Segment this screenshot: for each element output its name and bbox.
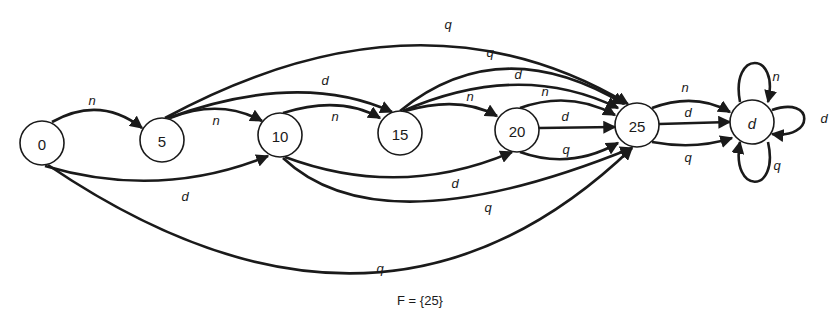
edge-label: d [561,109,569,124]
edge-label: q [486,45,494,60]
edge-label: q [562,142,570,157]
state-node-25: 25 [615,103,659,147]
edge-10-to-20-d [285,152,512,177]
edge-label: n [772,69,779,84]
edge-0-to-25-q [48,148,632,273]
edge-25-to-d-d [659,122,730,124]
edge-25-to-d-q [652,138,732,145]
state-node-10: 10 [258,113,302,157]
automaton-diagram: ndqndqndqndqndqndqndq 0510152025d F = {2… [0,0,840,325]
state-node-0: 0 [20,121,64,165]
edge-label: d [181,189,189,204]
state-label: d [748,115,757,132]
state-label: 15 [392,126,409,143]
edge-label: q [684,150,692,165]
edge-label: q [376,261,384,276]
state-label: 20 [509,123,526,140]
edge-label: n [88,93,95,108]
edge-0-to-5-n [52,110,142,128]
edge-d-to-d-q [739,142,770,182]
edge-label: n [331,109,338,124]
edge-label: d [321,73,329,88]
edge-label: q [444,17,452,32]
edge-label: d [451,176,459,191]
state-label: 0 [38,136,46,153]
edge-5-to-25-q [165,45,628,118]
state-node-15: 15 [378,111,422,155]
state-node-5: 5 [140,118,184,162]
edge-label: n [681,80,688,95]
edge-20-to-25-d [539,127,615,128]
final-states-caption: F = {25} [397,293,444,308]
state-node-20: 20 [495,108,539,152]
edge-d-to-d-n [739,63,770,102]
edge-label: q [484,200,492,215]
state-label: 5 [158,133,166,150]
edge-label: d [684,105,692,120]
edge-label: d [820,111,828,126]
edge-label: n [212,113,219,128]
edge-d-to-d-d [772,107,804,135]
state-label: 25 [629,118,646,135]
state-node-d: d [730,100,774,144]
nodes-group: 0510152025d [20,100,774,165]
state-label: 10 [272,128,289,145]
edge-label: q [773,158,781,173]
edge-label: n [541,84,548,99]
